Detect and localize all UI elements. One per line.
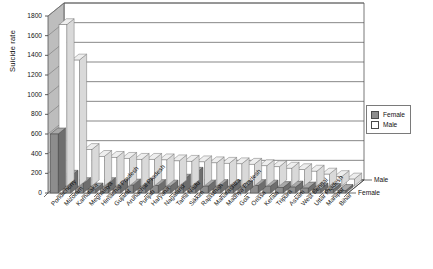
- depth-axis-label-female: Female: [358, 189, 380, 196]
- x-axis-labels: PondicherryMizoramKarnatakaMeghalayaHima…: [0, 0, 433, 269]
- chart-figure: Suicide rate 020040060080010001200140016…: [0, 0, 433, 269]
- x-axis-tick-label: Pondicherry: [50, 202, 55, 207]
- x-axis-tick-label: Arunachal Pradesh: [125, 202, 130, 207]
- x-axis-tick-label: Meghalaya: [87, 202, 92, 207]
- x-axis-tick-label: Goa: [237, 202, 242, 207]
- x-axis-tick-label: Assam: [287, 202, 292, 207]
- x-axis-tick-label: Manipur: [325, 202, 330, 207]
- legend-label-male: Male: [383, 121, 397, 129]
- legend-item-male: Male: [371, 120, 405, 129]
- x-axis-tick-label: Mizoram: [62, 202, 67, 207]
- x-axis-tick-label: Madhya Pradesh: [225, 202, 230, 207]
- x-axis-tick-label: Haryana: [150, 202, 155, 207]
- depth-axis-label-male: Male: [374, 176, 388, 183]
- x-axis-tick-label: Sikkim: [187, 202, 192, 207]
- x-axis-tick-label: Karnataka: [75, 202, 80, 207]
- x-axis-tick-label: Maharashtra: [212, 202, 217, 207]
- x-axis-tick-label: Uttar Pradesh: [312, 202, 317, 207]
- legend-swatch-male-icon: [371, 121, 379, 129]
- x-axis-tick-label: West Bengal: [300, 202, 305, 207]
- legend-swatch-female-icon: [371, 111, 379, 119]
- x-axis-tick-label: Tamil Nadu: [175, 202, 180, 207]
- x-axis-tick-label: Orissa: [250, 202, 255, 207]
- legend-item-female: Female: [371, 110, 405, 119]
- chart-legend: Female Male: [366, 105, 411, 134]
- x-axis-tick-label: Kerala: [262, 202, 267, 207]
- x-axis-tick-label: Nagaland: [162, 202, 167, 207]
- x-axis-tick-label: Rajasthan: [200, 202, 205, 207]
- x-axis-tick-label: Himachal Pradesh: [100, 202, 105, 207]
- legend-label-female: Female: [383, 111, 405, 119]
- x-axis-tick-label: Tripura: [275, 202, 280, 207]
- x-axis-tick-label: Gujarat: [112, 202, 117, 207]
- x-axis-tick-label: Bihar: [337, 202, 342, 207]
- x-axis-tick-label: Punjab: [137, 202, 142, 207]
